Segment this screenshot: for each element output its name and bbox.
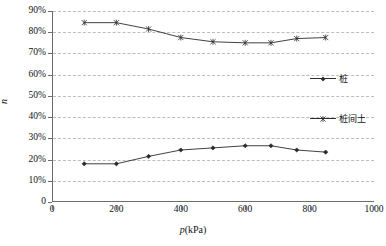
x-tick-mark: [374, 206, 375, 210]
chart-container: 010%20%30%40%50%60%70%80%90% n 020040060…: [0, 0, 386, 246]
series-line: [84, 146, 326, 164]
data-point-marker: [243, 144, 247, 148]
data-point-marker: [320, 116, 325, 122]
x-axis-title: p(kPa): [0, 224, 386, 235]
legend-label: 桩: [339, 72, 348, 85]
legend-diamond-icon: [310, 74, 336, 84]
y-tick-label: 90%: [0, 6, 46, 16]
data-point-marker: [179, 148, 183, 152]
y-tick-label: 70%: [0, 48, 46, 58]
y-tick-label: 30%: [0, 133, 46, 143]
y-tick-label: 40%: [0, 112, 46, 122]
x-tick-label: 1000: [354, 205, 386, 215]
y-tick-label: 80%: [0, 27, 46, 37]
data-point-marker: [82, 162, 86, 166]
data-point-marker: [324, 150, 328, 154]
data-point-marker: [147, 154, 151, 158]
data-point-marker: [114, 162, 118, 166]
legend-entry[interactable]: 桩间土: [310, 112, 366, 125]
data-point-marker: [295, 148, 299, 152]
data-series-layer: [52, 11, 374, 202]
x-tick-mark: [52, 206, 53, 210]
x-tick-mark: [181, 206, 182, 210]
y-tick-mark: [48, 202, 52, 203]
y-tick-label: 20%: [0, 155, 46, 165]
data-point-marker: [269, 144, 273, 148]
y-tick-label: 10%: [0, 176, 46, 186]
y-tick-label: 60%: [0, 70, 46, 80]
legend-entry[interactable]: 桩: [310, 72, 348, 85]
x-tick-mark: [245, 206, 246, 210]
x-axis: 02004006008001000: [52, 205, 374, 219]
data-point-marker: [321, 76, 325, 80]
x-tick-mark: [310, 206, 311, 210]
y-axis-title: n: [0, 99, 9, 104]
data-point-marker: [211, 146, 215, 150]
x-axis-title-unit: (kPa): [185, 224, 207, 235]
series-line: [84, 23, 326, 43]
legend-label: 桩间土: [339, 112, 366, 125]
x-tick-mark: [116, 206, 117, 210]
legend-cross-icon: [310, 114, 336, 124]
